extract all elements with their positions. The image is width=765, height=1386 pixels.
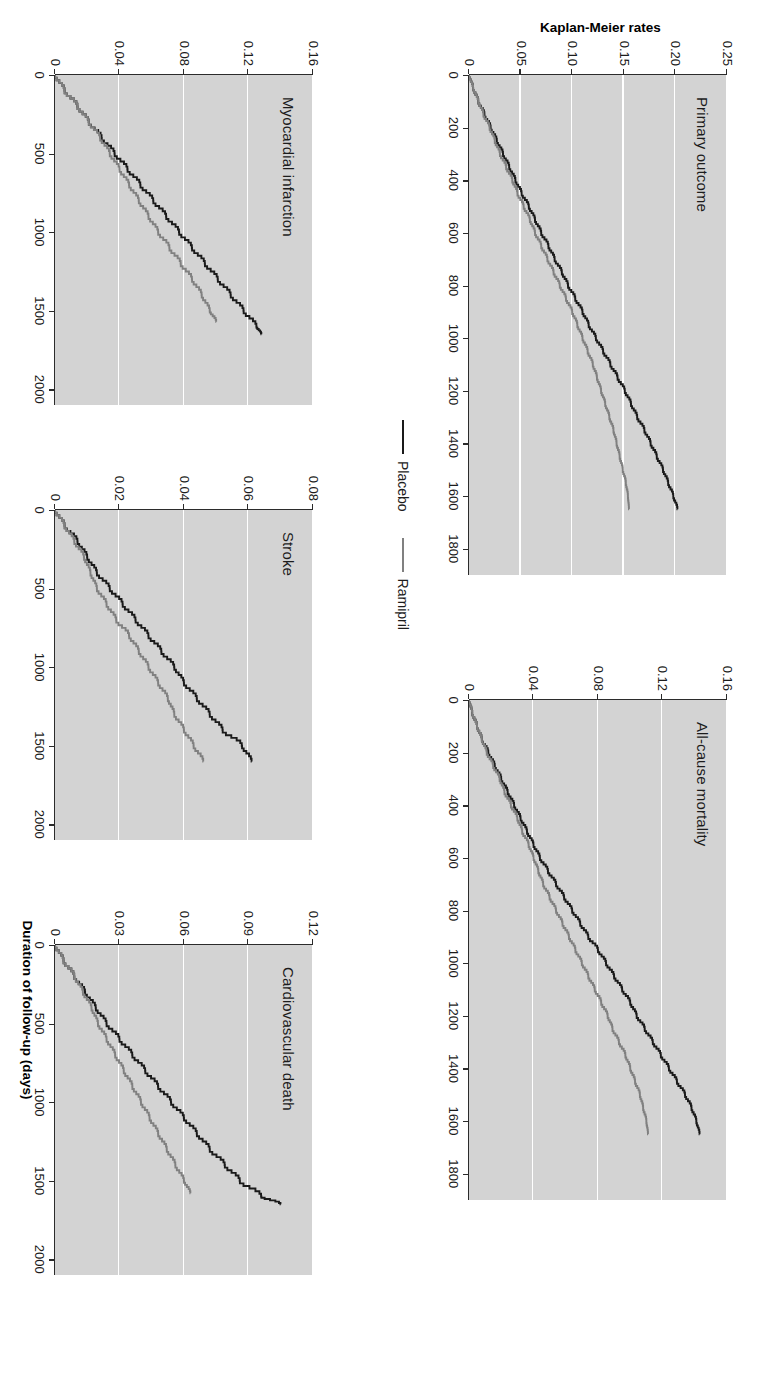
y-tick-label: 0.02 (112, 476, 127, 510)
y-tick-label: 0.20 (668, 41, 683, 75)
panel-title: Primary outcome (694, 97, 711, 212)
x-tick-label: 400 (446, 794, 461, 816)
y-tick-label: 0 (462, 684, 477, 700)
x-tick-label: 2000 (32, 810, 47, 839)
series-line-ramipril (55, 75, 216, 322)
x-tick-label: 1000 (446, 949, 461, 978)
x-tick-label: 0 (32, 506, 47, 513)
panel-title: Myocardial infarction (280, 97, 297, 237)
x-tick (463, 75, 468, 76)
panel-title: All-cause mortality (694, 722, 711, 846)
x-tick-label: 0 (446, 696, 461, 703)
y-tick-label: 0.04 (177, 476, 192, 510)
x-tick (463, 1068, 468, 1069)
x-tick (463, 1174, 468, 1175)
x-tick (463, 858, 468, 859)
y-tick-label: 0 (48, 494, 63, 510)
x-tick (49, 389, 54, 390)
y-tick-label: 0.04 (526, 666, 541, 700)
y-tick-label: 0.05 (513, 41, 528, 75)
x-axis-line (54, 75, 55, 405)
x-tick-label: 2000 (32, 375, 47, 404)
x-tick (463, 1121, 468, 1122)
legend-label-placebo: Placebo (395, 461, 411, 512)
x-tick-label: 2000 (32, 1245, 47, 1274)
x-axis-line (54, 945, 55, 1275)
series-line-placebo (469, 75, 677, 509)
y-tick-label: 0.12 (241, 41, 256, 75)
y-tick-label: 0.12 (655, 666, 670, 700)
y-tick-label: 0.06 (241, 476, 256, 510)
y-tick-label: 0.12 (306, 911, 321, 945)
y-tick-label: 0 (48, 929, 63, 945)
y-tick-label: 0.08 (177, 41, 192, 75)
x-tick-label: 500 (32, 578, 47, 600)
panel-title: Cardiovascular death (280, 967, 297, 1111)
x-tick-label: 400 (446, 169, 461, 191)
x-tick (49, 1181, 54, 1182)
panel-title: Stroke (280, 532, 297, 576)
y-tick-label: 0 (462, 59, 477, 75)
x-tick-label: 0 (446, 71, 461, 78)
x-tick (49, 1259, 54, 1260)
series-line-placebo (55, 945, 281, 1204)
x-tick-label: 600 (446, 222, 461, 244)
chart-panel-primary-outcome: 00.050.100.150.200.250200400600800100012… (469, 75, 727, 575)
y-tick-label: 0.25 (720, 41, 735, 75)
x-tick-label: 200 (446, 742, 461, 764)
x-axis-line (468, 700, 469, 1200)
x-tick (463, 753, 468, 754)
x-tick (463, 496, 468, 497)
x-tick (463, 443, 468, 444)
legend-item-ramipril: Ramipril (395, 538, 411, 630)
x-tick-label: 1000 (32, 653, 47, 682)
series-line-placebo (469, 700, 700, 1134)
curve-layer (55, 945, 313, 1275)
y-tick-label: 0.03 (112, 911, 127, 945)
x-tick (49, 1102, 54, 1103)
y-tick-label: 0.06 (177, 911, 192, 945)
x-tick-label: 500 (32, 1013, 47, 1035)
y-tick-label: 0.09 (241, 911, 256, 945)
y-axis-title: Kaplan-Meier rates (540, 20, 661, 35)
x-tick (463, 180, 468, 181)
y-tick-label: 0.16 (720, 666, 735, 700)
x-tick-label: 0 (32, 941, 47, 948)
x-tick (49, 510, 54, 511)
y-tick-label: 0.08 (306, 476, 321, 510)
x-tick-label: 200 (446, 117, 461, 139)
x-tick-label: 1600 (446, 1107, 461, 1136)
x-tick-label: 800 (446, 900, 461, 922)
x-tick-label: 1200 (446, 1001, 461, 1030)
x-tick-label: 0 (32, 71, 47, 78)
x-tick (49, 232, 54, 233)
x-tick-label: 1500 (32, 1166, 47, 1195)
x-tick (49, 75, 54, 76)
x-tick (463, 391, 468, 392)
x-tick (463, 549, 468, 550)
series-line-placebo (55, 510, 252, 761)
curve-layer (55, 510, 313, 840)
x-axis-line (468, 75, 469, 575)
x-tick-label: 1500 (32, 731, 47, 760)
legend-swatch-placebo (402, 420, 404, 454)
x-tick (49, 667, 54, 668)
x-tick (49, 824, 54, 825)
x-tick-label: 1400 (446, 1054, 461, 1083)
y-tick-label: 0.08 (591, 666, 606, 700)
x-tick-label: 1500 (32, 296, 47, 325)
x-tick-label: 1000 (32, 1088, 47, 1117)
x-tick-label: 1600 (446, 482, 461, 511)
legend-swatch-ramipril (402, 538, 404, 572)
plot-area (469, 700, 727, 1200)
x-tick (463, 805, 468, 806)
plot-area (55, 945, 313, 1275)
series-line-ramipril (469, 700, 648, 1134)
x-tick (463, 338, 468, 339)
x-tick-label: 1800 (446, 1159, 461, 1188)
series-line-ramipril (55, 510, 203, 761)
x-tick (463, 286, 468, 287)
series-line-ramipril (469, 75, 629, 509)
plot-area (55, 75, 313, 405)
x-tick-label: 1200 (446, 376, 461, 405)
